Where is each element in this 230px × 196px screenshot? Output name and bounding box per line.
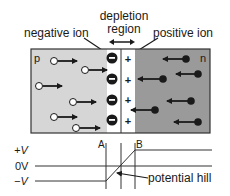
depletion-width-arrow <box>109 39 135 45</box>
minus-v-label: −V <box>14 175 29 187</box>
positive-ion: + <box>125 115 131 127</box>
p-label: p <box>34 52 40 64</box>
potential-hill-pointer <box>117 173 148 178</box>
region-label: region <box>107 22 140 36</box>
negative-ion <box>107 115 118 126</box>
zero-v-label: 0V <box>15 160 29 172</box>
negative-ion <box>107 95 118 106</box>
positive-ion-label: positive ion <box>153 26 213 40</box>
point-b-label: B <box>136 139 143 150</box>
negative-ion-label: negative ion <box>24 26 89 40</box>
depletion-label: depletion <box>100 9 149 23</box>
point-a-label: A <box>98 139 105 150</box>
potential-hill-label: potential hill <box>148 171 211 185</box>
pn-junction-diagram: depletion region negative ion positive i… <box>0 0 230 196</box>
negative-ion <box>107 74 118 85</box>
positive-ion: + <box>125 74 131 86</box>
plus-v-label: +V <box>14 144 29 156</box>
positive-ion: + <box>125 94 131 106</box>
positive-ion: + <box>125 53 131 65</box>
negative-ion <box>107 53 118 64</box>
n-label: n <box>200 52 206 64</box>
